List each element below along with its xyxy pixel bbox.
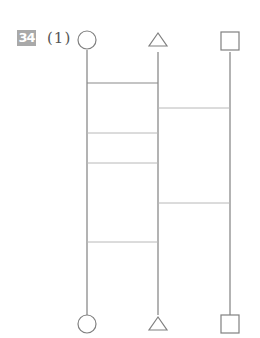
top-triangle-icon	[149, 33, 167, 46]
bottom-circle-icon	[78, 315, 96, 333]
ladder-diagram	[0, 0, 260, 338]
bottom-square-icon	[221, 315, 239, 333]
top-square-icon	[221, 32, 239, 50]
top-circle-icon	[78, 31, 96, 49]
bottom-triangle-icon	[149, 317, 167, 330]
